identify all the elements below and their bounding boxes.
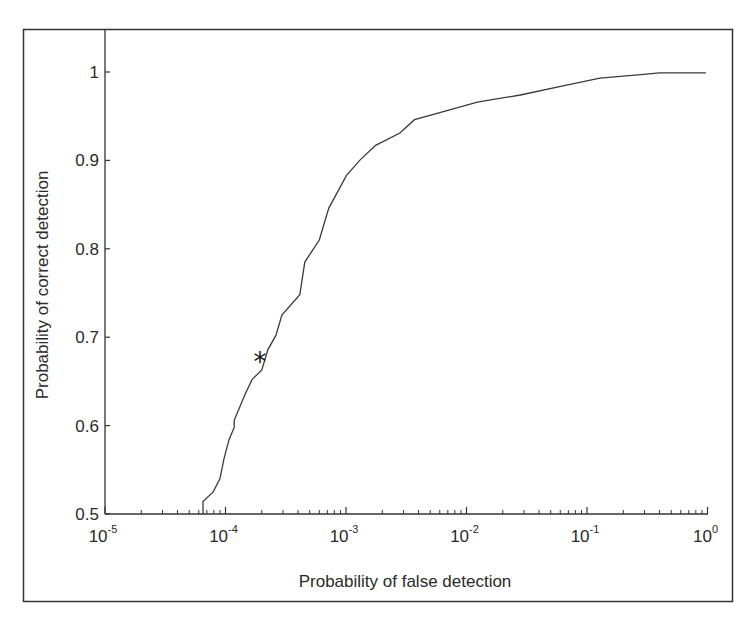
y-axis-label: Probability of correct detection	[33, 171, 52, 400]
operating-point-star-icon: *	[253, 347, 266, 377]
y-tick-label: 1	[90, 63, 99, 82]
y-tick-label: 0.5	[75, 505, 99, 524]
y-tick-label: 0.6	[75, 417, 99, 436]
x-tick-label: 10-4	[209, 523, 238, 546]
x-axis-label: Probability of false detection	[299, 572, 512, 591]
roc-figure: 10-510-410-310-210-1100 0.50.60.70.80.91…	[0, 0, 750, 630]
x-axis-ticks: 10-510-410-310-210-1100	[89, 507, 718, 546]
x-tick-label: 10-3	[330, 523, 359, 546]
x-tick-label: 100	[693, 523, 718, 546]
plot-area: 10-510-410-310-210-1100 0.50.60.70.80.91…	[75, 29, 718, 546]
y-tick-label: 0.8	[75, 240, 99, 259]
x-tick-label: 10-2	[450, 523, 479, 546]
roc-curve-line	[203, 73, 706, 514]
y-tick-label: 0.7	[75, 328, 99, 347]
x-tick-label: 10-1	[571, 523, 600, 546]
figure-frame	[24, 30, 733, 602]
x-tick-label: 10-5	[89, 523, 118, 546]
y-tick-label: 0.9	[75, 151, 99, 170]
